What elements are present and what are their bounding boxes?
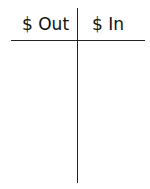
horizontal-divider [11, 40, 145, 41]
in-column-header: $ In [92, 14, 124, 34]
vertical-divider [77, 8, 78, 183]
out-column-header: $ Out [22, 14, 69, 34]
